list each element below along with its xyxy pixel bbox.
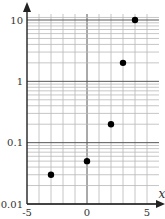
data-point bbox=[132, 17, 138, 23]
y-tick-label: 1 bbox=[17, 76, 23, 87]
x-axis-label: x bbox=[159, 187, 165, 201]
x-tick-label: 0 bbox=[84, 207, 90, 218]
axes bbox=[23, 2, 165, 208]
grid bbox=[27, 14, 159, 204]
x-axis-arrow-icon bbox=[156, 200, 165, 208]
x-tick-label: 5 bbox=[144, 207, 150, 218]
y-tick-label: 0.1 bbox=[7, 137, 23, 148]
log-scale-scatter-chart: -5050.010.1110 x bbox=[0, 0, 165, 218]
y-tick-label: 10 bbox=[10, 15, 23, 26]
tick-labels: -5050.010.1110 bbox=[1, 15, 150, 219]
y-tick-label: 0.01 bbox=[1, 199, 23, 210]
data-point bbox=[48, 172, 54, 178]
data-point bbox=[84, 158, 90, 164]
x-tick-label: -5 bbox=[22, 207, 32, 218]
data-points bbox=[48, 17, 138, 178]
y-axis-arrow-icon bbox=[23, 2, 31, 12]
data-point bbox=[120, 60, 126, 66]
chart-canvas: -5050.010.1110 x bbox=[0, 0, 165, 218]
data-point bbox=[108, 121, 114, 127]
axis-labels: x bbox=[159, 187, 165, 201]
